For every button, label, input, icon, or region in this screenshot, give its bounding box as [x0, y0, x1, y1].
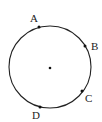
point-c-label: C [85, 92, 92, 104]
point-b-label: B [91, 40, 98, 52]
center-point [49, 67, 52, 70]
point-d-label: D [32, 109, 40, 121]
diagram-canvas: ABCD [0, 0, 102, 122]
point-a-label: A [30, 12, 38, 24]
point-a-marker [38, 26, 41, 29]
point-c-marker [81, 90, 84, 93]
circle-diagram: ABCD [0, 0, 102, 122]
point-b-marker [84, 45, 87, 48]
